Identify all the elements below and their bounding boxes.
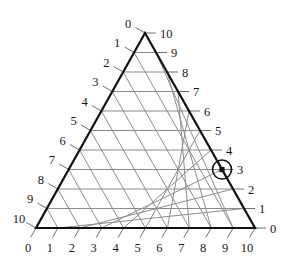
left-axis-tick-label: 9 (27, 192, 33, 206)
left-axis-tick-label: 2 (103, 56, 109, 70)
right-axis-tick-label: 6 (204, 105, 210, 119)
bottom-axis-tick-label: 9 (222, 241, 228, 255)
right-axis-tick-label: 7 (193, 85, 199, 99)
bottom-axis-tick-label: 1 (47, 241, 53, 255)
bottom-axis-tick-label: 8 (200, 241, 206, 255)
right-axis-tick-label: 5 (215, 124, 221, 138)
left-axis-tick-label: 5 (70, 114, 76, 128)
bottom-axis-tick-label: 4 (112, 241, 119, 255)
left-axis-tick-label: 4 (81, 95, 88, 109)
bottom-axis-tick-label: 6 (156, 241, 162, 255)
left-axis-tick-label: 0 (125, 17, 131, 31)
bottom-axis-tick-label: 10 (241, 241, 254, 255)
bottom-axis-tick-label: 7 (178, 241, 184, 255)
bottom-axis-tick-label: 5 (134, 241, 140, 255)
right-axis-tick-label: 2 (248, 183, 254, 197)
right-axis-tick-label: 9 (171, 46, 177, 60)
left-axis-tick-label: 1 (114, 36, 120, 50)
left-axis-tick-label: 3 (92, 75, 98, 89)
bottom-axis-tick-label: 0 (25, 241, 31, 255)
left-axis-tick-label: 10 (13, 212, 26, 226)
ternary-diagram: 012345678910109876543210012345678910 (0, 0, 295, 278)
left-axis-tick-label: 7 (49, 153, 55, 167)
left-axis-tick-label: 8 (38, 173, 44, 187)
ternary-plot-canvas: 012345678910109876543210012345678910 (0, 0, 295, 278)
grid-lines (47, 53, 244, 229)
bottom-axis-tick-label: 2 (69, 241, 75, 255)
bottom-axis-tick-label: 3 (91, 241, 97, 255)
right-axis-tick-label: 4 (226, 144, 233, 158)
marker-square-icon (219, 167, 224, 172)
right-axis-tick-label: 10 (160, 27, 173, 41)
right-axis-tick-label: 8 (182, 66, 188, 80)
right-axis-tick-label: 1 (259, 202, 265, 216)
right-axis-tick-label: 0 (270, 222, 276, 236)
right-axis-tick-label: 3 (237, 163, 243, 177)
left-axis-tick-label: 6 (60, 134, 66, 148)
